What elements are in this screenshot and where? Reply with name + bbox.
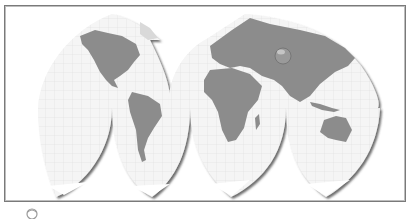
- world-map: [0, 0, 410, 219]
- globe-icon: [25, 206, 39, 219]
- antarctica-2: [130, 184, 170, 196]
